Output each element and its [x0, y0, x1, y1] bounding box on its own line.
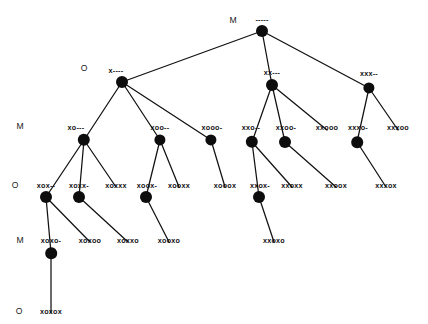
tree-node-label: xx--- — [264, 68, 280, 77]
player-row-label: O — [81, 63, 88, 73]
tree-node-label: xo--- — [68, 123, 85, 132]
tree-node-label: xxoox — [325, 181, 347, 190]
tree-node-label: xoxx- — [69, 181, 89, 190]
tree-node-label: xoxo- — [41, 236, 61, 245]
tree-node-dot[interactable] — [40, 191, 52, 203]
tree-edge-layer — [0, 0, 428, 324]
tree-node-label: xooox — [214, 181, 236, 190]
tree-edge — [262, 31, 272, 85]
tree-edge — [357, 88, 369, 142]
tree-node-dot[interactable] — [363, 82, 374, 93]
tree-node-label: x---- — [109, 66, 124, 75]
tree-node-label: xox-- — [37, 181, 55, 190]
tree-edge — [272, 85, 285, 142]
tree-node-label: xoo-- — [151, 123, 170, 132]
player-row-label: M — [16, 235, 23, 245]
tree-node-label: xxxoo — [387, 123, 409, 132]
tree-node-dot[interactable] — [116, 76, 128, 88]
tree-node-label: xoxxx — [105, 181, 127, 190]
tree-node-label: xxox- — [250, 181, 270, 190]
tree-node-dot[interactable] — [205, 134, 216, 145]
tree-node-label: xxoxo — [263, 236, 285, 245]
tree-node-dot[interactable] — [45, 247, 57, 259]
tree-node-label: xxxo- — [348, 123, 368, 132]
tree-node-label: xxooo — [316, 123, 338, 132]
tree-edge — [122, 31, 262, 82]
player-row-label: M — [229, 15, 236, 25]
player-row-label: O — [12, 180, 19, 190]
tree-node-dot[interactable] — [279, 136, 291, 148]
tree-node-label: xxoo- — [276, 123, 296, 132]
tree-node-dot[interactable] — [154, 134, 165, 145]
tree-node-dot[interactable] — [140, 191, 152, 203]
tree-node-label: xoxxo — [117, 236, 139, 245]
tree-node-label: xxx-- — [360, 69, 378, 78]
tree-node-dot[interactable] — [351, 136, 363, 148]
tree-node-dot[interactable] — [246, 136, 258, 148]
tree-edge — [252, 85, 272, 142]
game-tree-diagram: -----x----xx---xxx--xo---xoo--xooo-xxo--… — [0, 0, 428, 324]
tree-node-label: xoxoo — [79, 236, 101, 245]
tree-node-label: xooo- — [202, 123, 223, 132]
tree-node-label: xxo-- — [242, 123, 260, 132]
player-row-label: O — [16, 306, 23, 316]
tree-node-dot[interactable] — [73, 191, 85, 203]
tree-edge — [84, 82, 122, 140]
tree-node-label: xoox- — [137, 181, 157, 190]
tree-node-label: xooxx — [168, 181, 190, 190]
tree-node-label: ----- — [255, 15, 268, 24]
tree-edge — [46, 197, 51, 253]
tree-edge — [262, 31, 369, 88]
tree-node-dot[interactable] — [256, 25, 268, 37]
tree-node-dot[interactable] — [253, 191, 265, 203]
tree-node-dot[interactable] — [266, 79, 278, 91]
player-row-label: M — [16, 121, 23, 131]
tree-node-label: xoxox — [40, 307, 62, 316]
tree-node-label: xooxo — [158, 236, 180, 245]
tree-node-label: xxxox — [375, 181, 397, 190]
tree-node-dot[interactable] — [78, 134, 90, 146]
tree-node-label: xxoxx — [281, 181, 303, 190]
